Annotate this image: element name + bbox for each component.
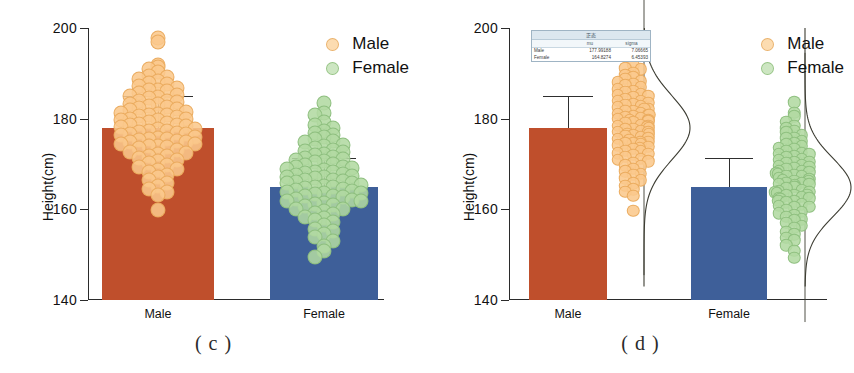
panel-d: Height(cm) 140160180200 MaleFemale 正态 mu… [427,0,854,373]
data-point-female [307,250,322,265]
error-bar-stem-male [568,96,569,128]
data-point-female [788,252,801,265]
legend-label-male-d: Male [787,34,824,54]
stats-table-header-row: mu sigma [532,40,650,47]
stats-table-head: mu sigma [532,40,650,47]
y-axis-line-c [88,28,89,300]
figure-two-panel-bar-charts: Height(cm) 140160180200 MaleFemale Male … [0,0,854,373]
data-point-male [151,188,166,203]
stats-row-sigma-male: 7.06665 [613,47,650,54]
data-point-male [151,203,166,218]
bar-male [529,128,607,300]
stats-col-group [532,40,567,47]
data-point-female [354,194,369,209]
data-point-male [627,189,640,202]
stats-table-body: Male 177.99188 7.06665 Female 164.8274 6… [532,47,650,61]
y-tick-mark [501,28,509,29]
y-tick-label: 180 [53,111,77,127]
y-axis-line-d [509,28,510,300]
stats-row-group-male: Male [532,47,567,54]
x-axis-label-male: Male [554,307,581,321]
legend-entry-female-c: Female [326,58,409,78]
legend-marker-female-icon [761,62,774,75]
legend-marker-male-icon [761,38,774,51]
panel-caption-d: ( d ) [427,332,854,355]
x-axis-label-female: Female [708,307,750,321]
legend-entry-female-d: Female [761,58,844,78]
legend-c: Male Female [326,34,409,82]
panel-c: Height(cm) 140160180200 MaleFemale Male … [0,0,427,373]
x-axis-label-male: Male [144,307,171,321]
normal-fit-stats-table: 正态 mu sigma Male 177.99188 7.06665 [531,30,651,62]
legend-entry-male-c: Male [326,34,409,54]
data-point-male [151,35,166,50]
legend-label-female-d: Female [787,58,844,78]
y-tick-mark [501,209,509,210]
y-tick-label: 140 [53,292,77,308]
y-tick-label: 140 [474,292,498,308]
stats-table-grid: mu sigma Male 177.99188 7.06665 Female 1… [532,40,650,61]
y-tick-mark [501,119,509,120]
error-bar-stem-female [729,158,730,187]
y-tick-label: 200 [474,20,498,36]
stats-col-sigma: sigma [613,40,650,47]
legend-entry-male-d: Male [761,34,844,54]
y-tick-label: 180 [474,111,498,127]
y-tick-mark [501,300,509,301]
y-tick-label: 160 [53,201,77,217]
table-row: Male 177.99188 7.06665 [532,47,650,54]
stats-row-group-female: Female [532,55,567,62]
y-tick-mark [80,300,88,301]
stats-row-mu-male: 177.99188 [567,47,613,54]
legend-marker-female-icon [326,62,339,75]
stats-table-title: 正态 [532,31,650,40]
y-tick-label: 160 [474,201,498,217]
data-point-male [627,205,640,218]
stats-col-mu: mu [567,40,613,47]
x-axis-label-female: Female [303,307,345,321]
legend-label-male-c: Male [352,34,389,54]
y-tick-label: 200 [53,20,77,36]
table-row: Female 164.8274 6.45393 [532,55,650,62]
stats-row-mu-female: 164.8274 [567,55,613,62]
error-bar-cap-female [705,158,753,159]
legend-marker-male-icon [326,38,339,51]
error-bar-cap-male [543,96,593,97]
legend-d: Male Female [761,34,844,82]
y-tick-mark [80,209,88,210]
bar-female [691,187,767,300]
panel-caption-c: ( c ) [0,332,427,355]
y-tick-mark [80,28,88,29]
y-tick-mark [80,119,88,120]
stats-row-sigma-female: 6.45393 [613,55,650,62]
legend-label-female-c: Female [352,58,409,78]
